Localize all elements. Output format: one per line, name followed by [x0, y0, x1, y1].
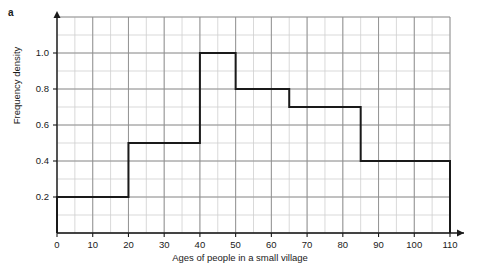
y-tick-label: 0.2 [19, 191, 49, 202]
histogram-plot [0, 0, 480, 269]
y-tick-label: 0.6 [19, 119, 49, 130]
x-tick-label: 0 [42, 239, 72, 250]
x-tick-label: 70 [292, 239, 322, 250]
x-tick-label: 40 [185, 239, 215, 250]
x-tick-label: 50 [221, 239, 251, 250]
y-tick-label: 0.8 [19, 83, 49, 94]
x-tick-label: 80 [328, 239, 358, 250]
x-tick-label: 20 [113, 239, 143, 250]
x-tick-label: 90 [364, 239, 394, 250]
y-tick-label: 0.4 [19, 155, 49, 166]
x-tick-label: 30 [149, 239, 179, 250]
x-axis-arrow [457, 230, 464, 237]
x-tick-label: 60 [256, 239, 286, 250]
x-axis-label: Ages of people in a small village [0, 252, 480, 263]
y-axis-arrow [54, 11, 61, 18]
x-tick-label: 110 [435, 239, 465, 250]
figure-panel: a Frequency density 01020304050607080901… [0, 0, 480, 269]
y-tick-label: 1.0 [19, 47, 49, 58]
x-tick-label: 100 [399, 239, 429, 250]
x-tick-label: 10 [78, 239, 108, 250]
